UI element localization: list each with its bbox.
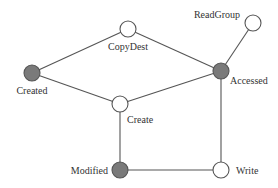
node-write [213, 162, 229, 178]
node-readgroup [245, 15, 261, 31]
node-label-created: Created [16, 85, 47, 96]
node-label-create: Create [127, 114, 154, 125]
node-accessed [213, 63, 229, 79]
node-created [24, 65, 40, 81]
node-label-copydest: CopyDest [108, 41, 148, 52]
edge-create-accessed [120, 71, 221, 104]
node-label-modified: Modified [71, 165, 108, 176]
node-create [112, 96, 128, 112]
node-label-write: Write [236, 165, 259, 176]
edge-readgroup-accessed [221, 23, 253, 71]
node-copydest [120, 21, 136, 37]
node-label-readgroup: ReadGroup [194, 9, 240, 20]
labels-layer: CopyDestReadGroupAccessedCreatedCreateMo… [16, 9, 267, 176]
node-label-accessed: Accessed [230, 75, 268, 86]
state-graph: CopyDestReadGroupAccessedCreatedCreateMo… [0, 0, 278, 188]
node-modified [112, 162, 128, 178]
